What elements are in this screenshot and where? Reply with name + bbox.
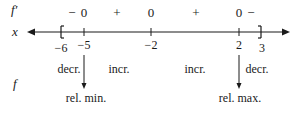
sign-mark: 0 [148,5,155,20]
tick-label: −5 [78,38,91,52]
down-arrow-icon [82,55,87,89]
sign-mark: − [247,5,254,20]
sign-mark: + [113,5,120,20]
tick-label: −2 [145,38,158,52]
left-arrowhead-icon [27,29,35,36]
sign-mark: 0 [81,5,88,20]
tick-label: 3 [259,41,265,55]
right-arrowhead-icon [282,29,290,36]
behavior-label: incr. [109,62,130,76]
behavior-label: decr. [246,62,269,76]
sign-chart: f′ x f −6 −5 −2 2 3 − 0 + 0 + 0 − decr. … [0,0,292,115]
down-arrow-icon [237,55,242,89]
behavior-label: incr. [185,62,206,76]
fprime-row-label: f′ [11,2,18,17]
sign-mark: − [68,5,75,20]
x-axis-label: x [11,24,18,39]
tick-label: −6 [55,41,68,55]
tick-label: 2 [236,38,242,52]
sign-mark: 0 [236,5,243,20]
sign-mark: + [192,5,199,20]
rel-max-label: rel. max. [219,91,261,105]
rel-min-label: rel. min. [66,91,106,105]
f-row-label: f [13,76,19,91]
behavior-label: decr. [58,62,81,76]
